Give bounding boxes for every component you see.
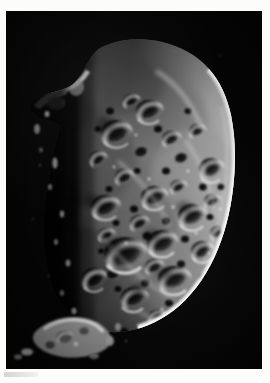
- faint-margin-mark: [4, 372, 38, 377]
- moon-image: [6, 11, 262, 369]
- photographic-plate: [6, 11, 262, 369]
- phoebe-render: [6, 11, 262, 369]
- page: [0, 0, 270, 383]
- phoebe-body: [6, 11, 262, 369]
